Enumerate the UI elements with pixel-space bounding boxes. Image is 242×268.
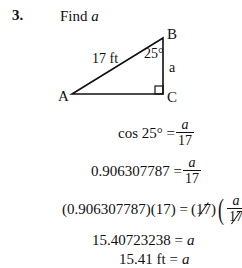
step3-lhs: (0.906307787)(17) = [62, 201, 188, 218]
cancelled-factor: (17) [191, 201, 216, 218]
denominator: 17 [178, 133, 192, 148]
step1-lhs: cos 25° = [118, 125, 175, 142]
step2-lhs: 0.906307787 = [91, 163, 182, 180]
fraction: a 17 [176, 118, 194, 148]
numerator: a [181, 118, 188, 132]
numerator: a [232, 194, 239, 208]
step5-rhs: a [182, 251, 190, 268]
fraction: a 17 [183, 156, 201, 186]
left-paren: ( [218, 194, 224, 224]
equation-step-4: 15.40723238 = a [92, 232, 194, 249]
cancelled-denominator: 17 [229, 209, 242, 224]
right-angle-marker [155, 86, 163, 94]
step4-lhs: 15.40723238 = [92, 232, 183, 249]
vertex-label-c: C [167, 90, 177, 105]
cancelled-17: 17 [196, 201, 211, 218]
angle-label: 25° [144, 47, 164, 61]
equation-step-1: cos 25° = a 17 [118, 118, 195, 148]
equation-step-3: (0.906307787)(17) = (17) ( a 17 ) [62, 194, 242, 224]
fraction: a 17 [227, 194, 242, 224]
hypotenuse-label: 17 ft [92, 52, 118, 66]
vertex-label-a: A [58, 89, 69, 104]
step5-lhs: 15.41 ft = [119, 251, 178, 268]
side-a-label: a [169, 61, 175, 75]
numerator: a [188, 156, 195, 170]
vertex-label-b: B [167, 27, 177, 42]
equation-step-5: 15.41 ft = a [119, 251, 189, 268]
right-triangle-diagram [0, 0, 242, 110]
step4-rhs: a [187, 232, 195, 249]
equation-step-2: 0.906307787 = a 17 [91, 156, 202, 186]
denominator: 17 [185, 171, 199, 186]
